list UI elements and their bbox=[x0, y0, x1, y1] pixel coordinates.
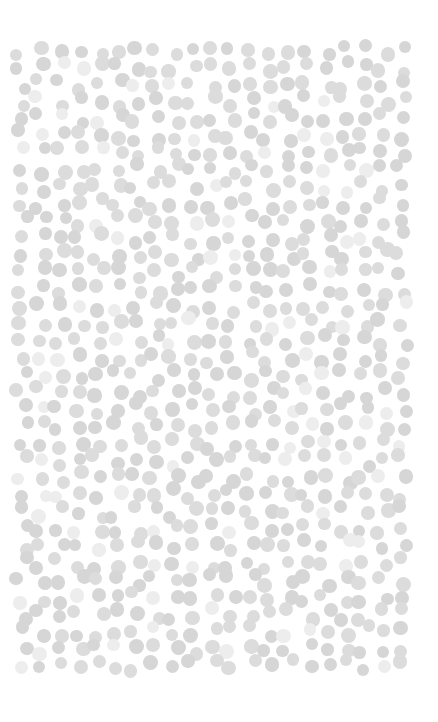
dot bbox=[68, 332, 81, 345]
dot bbox=[318, 328, 333, 343]
dot bbox=[221, 501, 235, 515]
dot bbox=[12, 264, 24, 276]
dot bbox=[166, 629, 178, 641]
dot bbox=[305, 313, 318, 326]
dot bbox=[396, 357, 410, 371]
dot bbox=[277, 539, 290, 552]
dot bbox=[285, 108, 299, 122]
dot bbox=[187, 43, 200, 56]
dot bbox=[199, 469, 212, 482]
dot bbox=[318, 489, 333, 504]
dot bbox=[29, 107, 42, 120]
dot bbox=[241, 557, 253, 569]
dot bbox=[71, 125, 85, 139]
dot bbox=[184, 353, 196, 365]
dot bbox=[324, 148, 339, 163]
dot bbox=[36, 57, 51, 72]
dot bbox=[394, 132, 409, 147]
dot bbox=[203, 148, 216, 161]
dot bbox=[357, 76, 372, 91]
dot bbox=[135, 336, 148, 349]
dot bbox=[172, 384, 186, 398]
dot bbox=[56, 500, 69, 513]
dot bbox=[97, 261, 111, 275]
dot bbox=[33, 439, 46, 452]
dot bbox=[295, 595, 308, 608]
dot bbox=[150, 296, 163, 309]
dot bbox=[37, 279, 50, 292]
dot bbox=[184, 200, 198, 214]
dot bbox=[265, 657, 279, 671]
dot bbox=[113, 165, 125, 177]
dot bbox=[129, 314, 143, 328]
dot bbox=[314, 366, 328, 380]
dot bbox=[133, 272, 145, 284]
dot bbox=[209, 452, 224, 467]
dot bbox=[313, 557, 327, 571]
dot bbox=[114, 278, 126, 290]
dot bbox=[300, 57, 313, 70]
dot bbox=[336, 201, 350, 215]
dot bbox=[339, 451, 352, 464]
dot bbox=[167, 363, 180, 376]
dot bbox=[372, 571, 385, 584]
dot bbox=[206, 236, 220, 250]
dot bbox=[279, 338, 292, 351]
dot bbox=[363, 619, 376, 632]
dot bbox=[114, 314, 129, 329]
dot bbox=[276, 645, 288, 657]
dot bbox=[168, 133, 181, 146]
dot bbox=[73, 486, 87, 500]
dot bbox=[144, 66, 156, 78]
dot bbox=[373, 107, 386, 120]
dot bbox=[297, 89, 310, 102]
dot bbox=[224, 544, 237, 557]
dot bbox=[260, 247, 274, 261]
dot bbox=[50, 141, 64, 155]
dot bbox=[222, 61, 236, 75]
dot bbox=[399, 41, 411, 53]
dot bbox=[186, 398, 198, 410]
dot bbox=[189, 501, 204, 516]
dot bbox=[297, 247, 309, 259]
dot bbox=[14, 249, 28, 263]
dot bbox=[362, 401, 374, 413]
dot bbox=[376, 542, 388, 554]
dot bbox=[323, 48, 335, 60]
dot bbox=[143, 655, 158, 670]
dot bbox=[183, 591, 197, 605]
dot bbox=[13, 164, 26, 177]
dot bbox=[181, 451, 194, 464]
dot bbox=[239, 486, 254, 501]
dot bbox=[297, 233, 310, 246]
dot bbox=[370, 312, 385, 327]
dot bbox=[94, 226, 109, 241]
dot bbox=[37, 629, 51, 643]
dot bbox=[282, 556, 294, 568]
dot bbox=[263, 64, 278, 79]
dot bbox=[111, 209, 124, 222]
dot bbox=[206, 317, 218, 329]
dot bbox=[107, 639, 120, 652]
dot bbox=[203, 250, 218, 265]
dot bbox=[165, 317, 177, 329]
dot bbox=[73, 347, 88, 362]
dot bbox=[115, 439, 128, 452]
dot bbox=[202, 388, 215, 401]
dot bbox=[317, 448, 331, 462]
dot bbox=[321, 625, 335, 639]
dot bbox=[266, 183, 281, 198]
dot bbox=[151, 501, 164, 514]
dot bbox=[15, 500, 29, 514]
dot bbox=[360, 202, 372, 214]
dot bbox=[110, 538, 124, 552]
dot bbox=[245, 209, 258, 222]
dot bbox=[206, 502, 219, 515]
dot bbox=[142, 202, 156, 216]
dot bbox=[30, 73, 42, 85]
dot bbox=[316, 114, 330, 128]
dot bbox=[88, 421, 102, 435]
dot bbox=[57, 243, 72, 258]
dot bbox=[181, 77, 193, 89]
dot bbox=[278, 452, 292, 466]
